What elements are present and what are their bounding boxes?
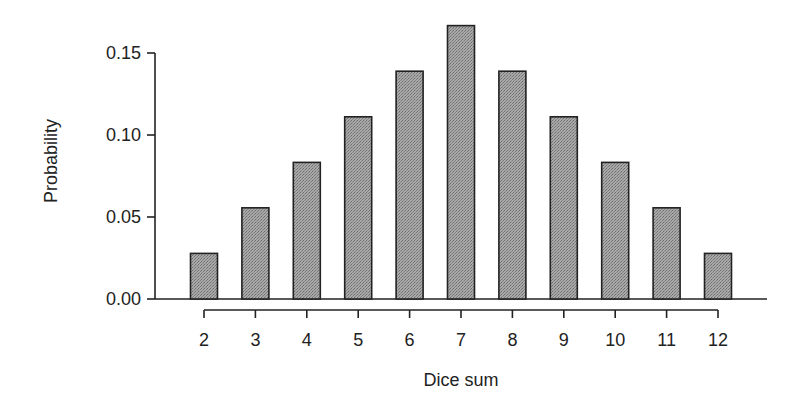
x-tick-label: 3: [250, 330, 260, 350]
x-axis-title: Dice sum: [423, 370, 498, 390]
bar-6: [396, 71, 423, 299]
bar-9: [550, 117, 577, 299]
bar-4: [293, 162, 320, 299]
bar-7: [448, 26, 475, 299]
x-tick-label: 9: [559, 330, 569, 350]
bars: [191, 26, 732, 299]
x-tick-label: 10: [605, 330, 625, 350]
y-axis-title: Probability: [41, 119, 61, 203]
x-tick-label: 5: [353, 330, 363, 350]
x-tick-label: 12: [708, 330, 728, 350]
x-tick-label: 6: [405, 330, 415, 350]
y-tick-label: 0.15: [106, 43, 141, 63]
bar-8: [499, 71, 526, 299]
bar-10: [602, 162, 629, 299]
bar-5: [345, 117, 372, 299]
y-tick-label: 0.10: [106, 125, 141, 145]
x-tick-label: 11: [657, 330, 676, 350]
x-tick-label: 2: [199, 330, 209, 350]
x-tick-label: 7: [456, 330, 466, 350]
x-tick-label: 8: [507, 330, 517, 350]
dice-sum-probability-chart: 0.000.050.100.15 23456789101112 Probabil…: [0, 0, 802, 407]
bar-12: [705, 253, 732, 299]
y-tick-label: 0.05: [106, 207, 141, 227]
bar-2: [191, 253, 218, 299]
bar-11: [653, 208, 680, 299]
x-axis: 23456789101112: [199, 310, 728, 350]
x-tick-label: 4: [302, 330, 312, 350]
bar-3: [242, 208, 269, 299]
y-tick-label: 0.00: [106, 289, 141, 309]
